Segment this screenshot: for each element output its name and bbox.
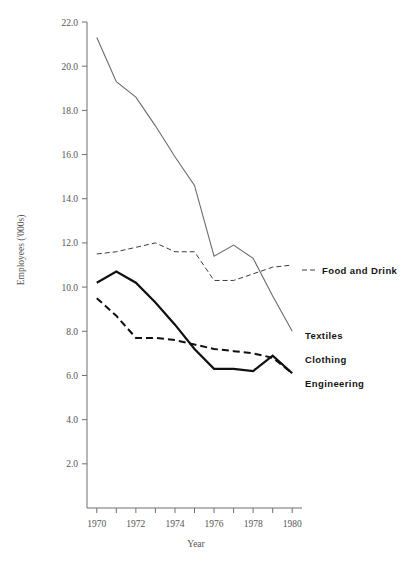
x-tick-label: 1978 — [244, 519, 263, 529]
y-axis-title: Employees ('000s) — [16, 215, 27, 286]
x-tick-label: 1974 — [165, 519, 184, 529]
y-tick-label: 20.0 — [61, 62, 78, 72]
series-line-engineering — [97, 272, 292, 374]
y-axis-ticks: 2.04.06.08.010.012.014.016.018.020.022.0 — [61, 18, 87, 470]
series-label-textiles: Textiles — [305, 330, 343, 341]
x-tick-label: 1976 — [205, 519, 224, 529]
y-tick-label: 4.0 — [66, 415, 78, 425]
y-tick-label: 18.0 — [61, 106, 78, 116]
series-line-textiles — [97, 37, 292, 331]
x-axis-title: Year — [187, 539, 205, 549]
y-tick-label: 16.0 — [61, 150, 78, 160]
y-tick-label: 22.0 — [61, 18, 78, 28]
series-label-food-and-drink: Food and Drink — [322, 265, 398, 276]
y-tick-label: 12.0 — [61, 238, 78, 248]
series-label-clothing: Clothing — [305, 354, 347, 365]
chart-container: Employees ('000s) Year 2.04.06.08.010.01… — [0, 0, 407, 575]
y-tick-label: 8.0 — [66, 327, 78, 337]
x-tick-label: 1970 — [87, 519, 106, 529]
y-tick-label: 14.0 — [61, 194, 78, 204]
x-axis-ticks: 197019721974197619781980 — [87, 508, 302, 529]
y-tick-label: 10.0 — [61, 283, 78, 293]
x-tick-label: 1980 — [283, 519, 302, 529]
series-label-engineering: Engineering — [305, 378, 364, 389]
x-tick-label: 1972 — [126, 519, 145, 529]
series-line-food-and-drink — [97, 243, 292, 281]
y-tick-label: 2.0 — [66, 459, 78, 469]
y-tick-label: 6.0 — [66, 371, 78, 381]
line-chart: Employees ('000s) Year 2.04.06.08.010.01… — [0, 0, 407, 575]
